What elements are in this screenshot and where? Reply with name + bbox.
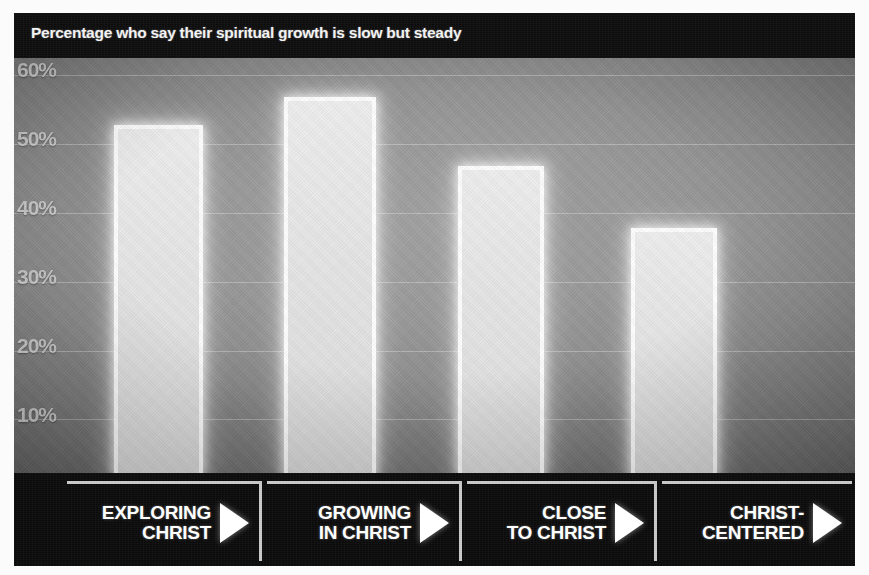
bar-close-to-christ xyxy=(462,170,540,473)
category-growing-in-christ[interactable]: GROWING IN CHRIST xyxy=(267,481,462,561)
category-content-growing-in-christ: GROWING IN CHRIST xyxy=(318,503,453,543)
chart-title: Percentage who say their spiritual growt… xyxy=(31,24,461,42)
play-triangle-icon xyxy=(615,503,644,543)
bar-exploring-christ xyxy=(118,129,199,473)
ytick-label-40: 40% xyxy=(17,196,56,220)
play-triangle-icon xyxy=(220,503,249,543)
play-triangle-icon xyxy=(813,503,842,543)
category-content-exploring-christ: EXPLORING CHRIST xyxy=(102,503,253,543)
chart-frame: Percentage who say their spiritual growt… xyxy=(14,13,855,566)
bar-growing-in-christ xyxy=(288,101,372,473)
ytick-label-20: 20% xyxy=(17,334,56,358)
category-content-close-to-christ: CLOSE TO CHRIST xyxy=(507,503,648,543)
category-content-christ-centered: CHRIST- CENTERED xyxy=(702,503,846,543)
category-label-close-to-christ: CLOSE TO CHRIST xyxy=(507,503,606,543)
ytick-label-60: 60% xyxy=(17,58,56,82)
ytick-label-30: 30% xyxy=(17,265,56,289)
bar-christ-centered xyxy=(635,232,713,473)
gridline-60 xyxy=(14,75,855,76)
category-label-exploring-christ: EXPLORING CHRIST xyxy=(102,503,211,543)
category-close-to-christ[interactable]: CLOSE TO CHRIST xyxy=(467,481,657,561)
category-label-band: EXPLORING CHRIST GROWING IN CHRIST CLOSE… xyxy=(14,473,855,566)
ytick-label-50: 50% xyxy=(17,127,56,151)
ytick-label-10: 10% xyxy=(17,403,56,427)
category-exploring-christ[interactable]: EXPLORING CHRIST xyxy=(67,481,262,561)
plot-area: 60% 50% 40% 30% 20% 10% xyxy=(14,58,855,473)
category-label-growing-in-christ: GROWING IN CHRIST xyxy=(318,503,411,543)
category-label-christ-centered: CHRIST- CENTERED xyxy=(702,503,804,543)
play-triangle-icon xyxy=(420,503,449,543)
category-christ-centered[interactable]: CHRIST- CENTERED xyxy=(662,481,852,561)
chart-root: Percentage who say their spiritual growt… xyxy=(0,0,869,575)
